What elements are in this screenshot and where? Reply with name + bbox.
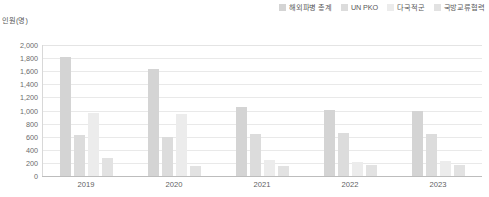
bar-groups <box>42 45 482 176</box>
bar[interactable] <box>148 69 159 176</box>
bar[interactable] <box>366 165 377 176</box>
x-axis-tick-label: 2019 <box>42 181 130 189</box>
bar[interactable] <box>278 166 289 176</box>
bar[interactable] <box>412 111 423 177</box>
legend-item-label: 다국적군 <box>397 4 425 11</box>
y-axis-tick-label: 600 <box>0 133 38 140</box>
legend-swatch-icon <box>341 4 348 11</box>
y-axis-tick-label: 1,600 <box>0 68 38 75</box>
bar-group-bars <box>42 45 130 176</box>
bar-group <box>218 45 306 176</box>
legend-item-label: 국방교류협력 <box>444 4 485 11</box>
bar-group <box>306 45 394 176</box>
bar[interactable] <box>440 161 451 176</box>
bar-group-bars <box>306 45 394 176</box>
y-axis-tick-label: 1,200 <box>0 94 38 101</box>
legend-item[interactable]: 해외파병 총계 <box>279 4 332 11</box>
x-axis-tick-label: 2022 <box>306 181 394 189</box>
legend-item[interactable]: 다국적군 <box>387 4 425 11</box>
bar-group <box>130 45 218 176</box>
bar[interactable] <box>324 110 335 176</box>
bar-group-bars <box>218 45 306 176</box>
x-axis-tick-label: 2021 <box>218 181 306 189</box>
legend-item[interactable]: 국방교류협력 <box>434 4 485 11</box>
bar[interactable] <box>352 162 363 176</box>
legend-swatch-icon <box>279 4 286 11</box>
bar[interactable] <box>338 133 349 176</box>
bar-group-bars <box>394 45 482 176</box>
y-axis-tick-labels: 2,0001,8001,6001,4001,2001,0008006004002… <box>0 45 38 176</box>
x-axis-tick-labels: 20192020202120222023 <box>42 181 482 189</box>
bar[interactable] <box>102 158 113 176</box>
x-axis-tick-label: 2023 <box>394 181 482 189</box>
y-axis-tick-label: 1,400 <box>0 81 38 88</box>
bar[interactable] <box>74 135 85 176</box>
y-axis-tick-label: 2,000 <box>0 42 38 49</box>
legend-item-label: UN PKO <box>351 4 378 11</box>
y-axis-tick-label: 200 <box>0 159 38 166</box>
legend-item[interactable]: UN PKO <box>341 4 378 11</box>
bar[interactable] <box>190 166 201 176</box>
x-axis-tick-label: 2020 <box>130 181 218 189</box>
chart-legend: 해외파병 총계UN PKO다국적군국방교류협력 <box>279 2 485 13</box>
bar[interactable] <box>162 137 173 176</box>
y-axis-tick-label: 1,800 <box>0 55 38 62</box>
y-axis-tick-label: 800 <box>0 120 38 127</box>
bar[interactable] <box>250 134 261 176</box>
legend-swatch-icon <box>434 4 441 11</box>
bar-group-bars <box>130 45 218 176</box>
bar[interactable] <box>264 160 275 176</box>
x-axis-line <box>42 176 482 177</box>
bar-group <box>394 45 482 176</box>
y-axis-tick-label: 1,000 <box>0 107 38 114</box>
y-axis-title: 인원(명) <box>2 17 28 24</box>
overseas-deployment-bar-chart: 해외파병 총계UN PKO다국적군국방교류협력 인원(명) 2,0001,800… <box>0 0 489 197</box>
bar[interactable] <box>60 57 71 176</box>
bar[interactable] <box>88 113 99 176</box>
legend-swatch-icon <box>387 4 394 11</box>
bar[interactable] <box>236 107 247 176</box>
y-axis-tick-label: 0 <box>0 173 38 180</box>
legend-item-label: 해외파병 총계 <box>289 4 332 11</box>
bar[interactable] <box>454 165 465 176</box>
bar[interactable] <box>426 134 437 176</box>
bar[interactable] <box>176 114 187 176</box>
y-axis-tick-label: 400 <box>0 146 38 153</box>
bar-group <box>42 45 130 176</box>
